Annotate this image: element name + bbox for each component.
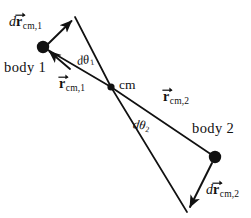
- r-cm-2-subscript: cm,2: [169, 96, 189, 106]
- differential-d-symbol: d: [206, 182, 213, 197]
- dr-cm-2-subscript: cm,2: [219, 189, 239, 199]
- body-1-dot: [37, 41, 49, 53]
- center-of-mass-dot: [107, 83, 114, 90]
- center-of-mass-label: cm: [119, 78, 136, 92]
- differential-d-symbol: d: [9, 14, 16, 29]
- dr-cm-1-arrow: [48, 21, 72, 44]
- body-2-label: body 2: [192, 121, 234, 136]
- r-cm-1-label: rcm,1: [59, 76, 85, 94]
- vector-r-symbol: r: [59, 76, 65, 91]
- d-theta-1-label: dθ1: [76, 53, 95, 70]
- dr-cm-1-subscript: cm,1: [22, 21, 42, 31]
- r-cm-2-label: rcm,2: [163, 89, 189, 107]
- vector-r-symbol: r: [163, 89, 169, 104]
- body-1-label: body 1: [4, 60, 46, 75]
- figure-root: drcm,1 body 1 dθ1 rcm,1 cm rcm,2 dθ2 bod…: [0, 0, 251, 218]
- dr-cm-2-label: drcm,2: [206, 182, 239, 200]
- vector-r-symbol: r: [16, 14, 22, 29]
- dr-cm-1-label: drcm,1: [9, 14, 42, 32]
- d-theta-2-label: dθ2: [132, 118, 151, 135]
- r-cm-1-subscript: cm,1: [65, 83, 85, 93]
- vector-r-symbol: r: [213, 182, 219, 197]
- body-2-dot: [209, 151, 221, 163]
